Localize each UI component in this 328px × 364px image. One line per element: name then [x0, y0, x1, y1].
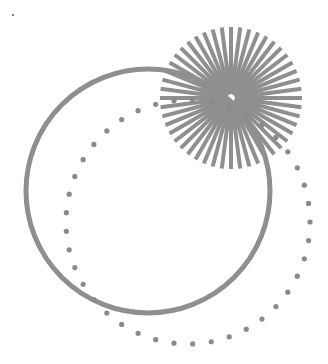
circles-illustration	[0, 0, 328, 364]
ring-dot	[285, 149, 290, 154]
ring-dot	[244, 112, 249, 117]
ring-dot	[67, 192, 72, 197]
ring-dot	[91, 142, 96, 147]
ring-dot	[209, 100, 214, 105]
ring-dot	[104, 310, 109, 315]
ring-dot	[72, 265, 77, 270]
ring-dot	[135, 331, 140, 336]
ring-dot	[72, 174, 77, 179]
ring-dot	[190, 97, 195, 102]
dust-speck	[12, 14, 14, 16]
ring-dot	[244, 327, 249, 332]
ring-dot	[81, 282, 86, 287]
ring-dot	[64, 229, 69, 234]
ring-dot	[273, 304, 278, 309]
ring-dot	[302, 183, 307, 188]
ring-dot	[259, 122, 264, 127]
ring-dot	[306, 238, 311, 243]
ring-dot	[67, 247, 72, 252]
ring-dot	[104, 128, 109, 133]
ring-dot	[64, 210, 69, 215]
background	[0, 0, 328, 364]
ring-dot	[302, 256, 307, 261]
ring-dot	[227, 105, 232, 110]
ring-dot	[190, 341, 195, 346]
ring-dot	[307, 219, 312, 224]
ring-dot	[119, 322, 124, 327]
ring-dot	[91, 297, 96, 302]
ring-dot	[259, 316, 264, 321]
ring-dot	[153, 102, 158, 107]
ring-dot	[306, 201, 311, 206]
ring-dot	[119, 117, 124, 122]
ring-dot	[171, 98, 176, 103]
ring-dot	[285, 290, 290, 295]
ring-dot	[273, 135, 278, 140]
ring-dot	[153, 337, 158, 342]
ring-dot	[227, 334, 232, 339]
ring-dot	[295, 165, 300, 170]
ring-dot	[81, 157, 86, 162]
ring-dot	[295, 274, 300, 279]
ring-dot	[171, 341, 176, 346]
ring-dot	[135, 108, 140, 113]
ring-dot	[209, 339, 214, 344]
